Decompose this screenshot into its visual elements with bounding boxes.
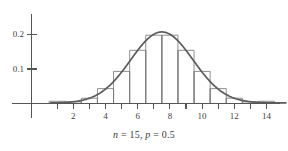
caption-p-value: = 0.5 [151, 129, 175, 140]
binomial-normal-approximation-figure: 2468101214 0.10.2 n = 15, p = 0.5 [0, 0, 288, 151]
x-tick-label-2: 2 [71, 111, 76, 121]
x-tick-labels: 2468101214 [71, 111, 271, 121]
caption-n-value: = 15, [118, 129, 145, 140]
x-tick-label-10: 10 [198, 111, 208, 121]
x-tick-label-4: 4 [103, 111, 108, 121]
chart-caption: n = 15, p = 0.5 [0, 129, 288, 140]
y-tick-label-0.2: 0.2 [13, 29, 24, 39]
x-tick-label-8: 8 [168, 111, 173, 121]
x-tick-label-14: 14 [262, 111, 272, 121]
y-tick-labels: 0.10.2 [13, 29, 24, 73]
x-tick-label-12: 12 [230, 111, 239, 121]
histogram-bars [49, 35, 274, 103]
y-tick-label-0.1: 0.1 [13, 64, 24, 74]
normal-curve [51, 32, 286, 103]
normal-curve-path [51, 32, 286, 103]
x-tick-label-6: 6 [135, 111, 140, 121]
